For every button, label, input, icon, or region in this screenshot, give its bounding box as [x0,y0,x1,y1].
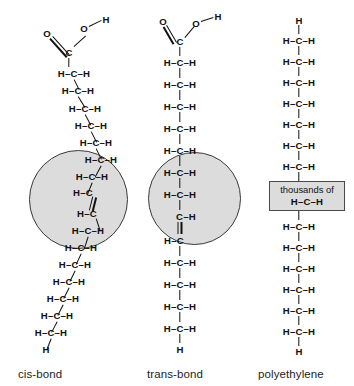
polyethylene-bond-tick [298,295,299,304]
trans-carbonyl-double-bond [167,25,177,42]
trans-bond-tick [179,178,180,188]
polyethylene-bond-tick [298,151,299,160]
polyethylene-structure: H H–C–H H–C–H H–C–H H–C–H H–C–H H–C–H H–… [252,0,354,355]
polyethylene-chain-unit: H–C–H [283,119,315,130]
thousands-of-repeat-unit-box: thousands of H–C–H [269,181,345,211]
polyethylene-bond-tick [298,130,299,139]
cis-c-o-single-bond [74,35,87,47]
repeat-unit-label: H–C–H [291,196,323,208]
trans-bond-tick [179,134,180,144]
trans-hydroxyl-hydrogen: H [215,11,222,22]
cis-carbonyl-oxygen: O [43,28,50,39]
trans-chain-unit: H–C–H [164,167,196,178]
thousands-of-label: thousands of [280,184,334,196]
cis-chain-unit: H–C–H [75,120,107,131]
polyethylene-bond-tick [298,253,299,262]
polyethylene-chain-unit: H–C–H [283,242,315,253]
polyethylene-terminal-hydrogen-bottom: H [295,346,302,357]
trans-bond-tick [179,246,180,256]
caption-polyethylene: polyethylene [258,368,324,380]
cis-o-h-bond [89,20,102,27]
trans-bond-tick [179,268,180,278]
polyethylene-bond-tick [298,25,299,34]
polyethylene-terminal-hydrogen-top: H [295,15,302,26]
polyethylene-bond-tick [298,274,299,283]
polyethylene-bond-tick [298,172,299,181]
cis-hydroxyl-hydrogen: H [103,14,110,25]
trans-chain-unit: H–C–H [164,145,196,156]
cis-chain-unit: H–C–H [62,85,94,96]
cis-chain-unit: H–C–H [72,225,104,236]
cis-chain-unit: H–C–H [80,137,112,148]
cis-carboxyl-carbon: C [66,47,73,58]
trans-chain-unit: H–C–H [164,257,196,268]
polyethylene-bond-tick [298,67,299,76]
trans-o-h-bond [201,17,214,22]
cis-chain-unit: H–C–H [53,276,85,287]
cis-chain-unit: H–C–H [35,327,67,338]
trans-bond-tick [179,47,180,56]
cis-double-bond-lower-carbon: H–C [77,208,97,219]
trans-chain-unit: H–C–H [164,279,196,290]
cis-chain-unit: H–C–H [65,242,97,253]
cis-chain-unit: H–C–H [76,171,108,182]
polyethylene-bond-tick [298,46,299,55]
trans-bond-tick [179,156,180,166]
trans-bond-tick [179,290,180,300]
caption-cis-bond: cis-bond [18,368,62,380]
cis-chain-unit: H–C–H [41,310,73,321]
trans-chain-unit: H–C–H [164,189,196,200]
trans-bond-tick [179,334,180,343]
trans-bond-tick [179,200,180,210]
cis-chain-unit: H–C–H [59,259,91,270]
polyethylene-bond-tick [298,109,299,118]
trans-chain-unit: H–C–H [164,301,196,312]
cis-terminal-hydrogen: H [42,344,49,355]
cis-chain-unit: H–C–H [58,68,90,79]
polyethylene-bond-tick [298,316,299,325]
trans-double-bond-lower-carbon: H–C [164,235,184,246]
trans-bond-tick [179,68,180,78]
cis-chain-unit: H–C–H [47,293,79,304]
trans-chain-unit: H–C–H [164,79,196,90]
polyethylene-chain-unit: H–C–H [283,161,315,172]
trans-double-bond-upper-carbon: C–H [176,211,196,222]
polyethylene-bond-tick [298,211,299,220]
trans-chain-unit: H–C–H [164,123,196,134]
polyethylene-chain-unit: H–C–H [283,326,315,337]
cis-chain-unit: H–C–H [69,103,101,114]
trans-chain-unit: H–C–H [164,323,196,334]
polyethylene-chain-unit: H–C–H [283,35,315,46]
polyethylene-bond-tick [298,88,299,97]
cis-chain-unit: H–C–H [85,154,117,165]
trans-bond-tick [179,312,180,322]
polyethylene-chain-unit: H–C–H [283,140,315,151]
caption-trans-bond: trans-bond [147,368,203,380]
polyethylene-chain-unit: H–C–H [283,305,315,316]
trans-hydroxyl-oxygen: O [192,18,199,29]
trans-chain-unit: H–C–H [164,101,196,112]
cis-double-bond-upper-carbon: H–C [73,187,93,198]
cis-hydroxyl-oxygen: O [80,23,87,34]
polyethylene-chain-unit: H–C–H [283,221,315,232]
trans-chain-unit: H–C–H [164,57,196,68]
cis-bond-tick [68,58,69,67]
polyethylene-chain-unit: H–C–H [283,98,315,109]
polyethylene-chain-unit: H–C–H [283,284,315,295]
diagram-canvas: O C O H H–C–H H–C–H H–C–H H–C–H H–C–H H–… [0,0,354,386]
polyethylene-chain-unit: H–C–H [283,56,315,67]
trans-bond-tick [179,90,180,100]
polyethylene-bond-tick [298,232,299,241]
trans-terminal-hydrogen: H [176,344,183,355]
polyethylene-chain-unit: H–C–H [283,263,315,274]
polyethylene-chain-unit: H–C–H [283,77,315,88]
trans-carboxyl-carbon: C [177,36,184,47]
trans-bond-tick [179,112,180,122]
trans-carbon-carbon-double-bond [178,222,183,234]
